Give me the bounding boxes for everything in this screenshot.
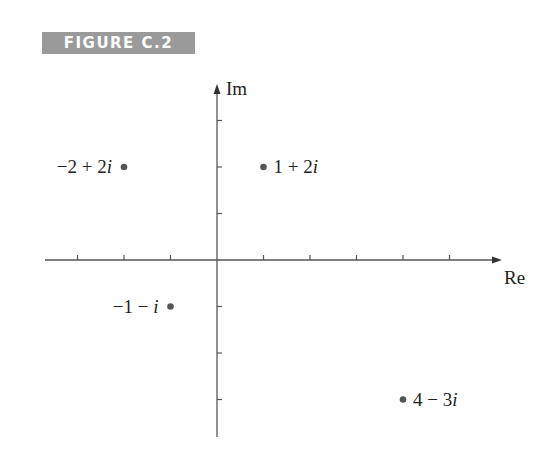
point-label: −2 + 2i: [57, 156, 112, 177]
point-label: −1 − i: [113, 296, 159, 317]
x-axis: [45, 257, 502, 264]
x-axis-label: Re: [504, 267, 525, 288]
y-axis-arrow-icon: [214, 84, 221, 94]
y-axis-label: Im: [226, 78, 247, 99]
x-axis-arrow-icon: [492, 257, 502, 264]
points-layer: −2 + 2i1 + 2i−1 − i4 − 3i: [57, 156, 458, 410]
point: 4 − 3i: [400, 389, 458, 410]
point: 1 + 2i: [260, 156, 318, 177]
complex-plane-diagram: Re Im −2 + 2i1 + 2i−1 − i4 − 3i: [0, 0, 551, 459]
point: −1 − i: [113, 296, 174, 317]
point-label: 1 + 2i: [274, 156, 319, 177]
point-dot-icon: [400, 396, 407, 403]
point-label: 4 − 3i: [413, 389, 458, 410]
point: −2 + 2i: [57, 156, 128, 177]
point-dot-icon: [121, 164, 128, 171]
point-dot-icon: [260, 164, 267, 171]
point-dot-icon: [167, 303, 174, 310]
